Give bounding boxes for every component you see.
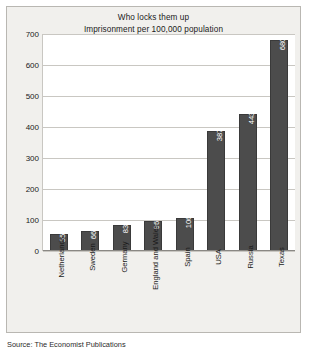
y-axis-tick-label: 600 xyxy=(26,61,39,70)
bar-value-label: 443 xyxy=(248,111,256,124)
x-axis-label-slot: USA xyxy=(200,255,232,331)
x-axis-label-slot: Germany xyxy=(105,255,137,331)
bar-slot: 443 xyxy=(239,34,257,251)
y-axis-tick-label: 500 xyxy=(26,92,39,101)
bar-slot: 83 xyxy=(113,34,131,251)
chart-title: Who locks them up xyxy=(7,13,300,22)
bar-value-label: 387 xyxy=(216,129,224,142)
x-axis-tick-label: Texas xyxy=(278,247,286,267)
y-axis-tick-label: 700 xyxy=(26,30,39,39)
x-axis-tick-label: Sweden xyxy=(89,243,97,270)
source-note: Source: The Economist Publications xyxy=(7,340,126,349)
x-axis-tick-label: USA xyxy=(215,249,223,265)
x-axis-label-slot: England and Wales xyxy=(137,255,169,331)
x-axis-label-slot: Sweden xyxy=(74,255,106,331)
bar-value-label: 680 xyxy=(279,38,287,51)
x-axis-category-labels: NetherlandsSwedenGermanyEngland and Wale… xyxy=(42,255,294,331)
gridline xyxy=(43,251,295,252)
x-axis-line xyxy=(43,250,295,251)
chart-subtitle: Imprisonment per 100,000 population xyxy=(7,25,300,34)
bar[interactable]: 106 xyxy=(176,218,194,251)
bar[interactable]: 680 xyxy=(270,40,288,251)
x-axis-tick-label: Germany xyxy=(121,241,129,272)
bar-value-label: 83 xyxy=(122,225,130,233)
y-axis-tick-label: 300 xyxy=(26,154,39,163)
x-axis-label-slot: Spain xyxy=(168,255,200,331)
bar[interactable]: 443 xyxy=(239,114,257,251)
bar-value-label: 66 xyxy=(90,230,98,238)
bar-slot: 106 xyxy=(176,34,194,251)
bar-slot: 387 xyxy=(207,34,225,251)
x-axis-tick-label: England and Wales xyxy=(152,224,160,290)
x-axis-label-slot: Russia xyxy=(231,255,263,331)
bar-slot: 55 xyxy=(50,34,68,251)
bar-slot: 680 xyxy=(270,34,288,251)
y-axis-tick-label: 400 xyxy=(26,123,39,132)
x-axis-label-slot: Texas xyxy=(263,255,295,331)
bar-slot: 66 xyxy=(81,34,99,251)
bar-series: 55668396106387443680 xyxy=(43,34,295,251)
bar-value-label: 106 xyxy=(185,216,193,229)
y-axis-tick-label: 100 xyxy=(26,216,39,225)
chart-panel: Who locks them up Imprisonment per 100,0… xyxy=(6,6,301,333)
bar-slot: 96 xyxy=(144,34,162,251)
y-axis-tick-label: 200 xyxy=(26,185,39,194)
plot-area: 0100200300400500600700 55668396106387443… xyxy=(42,34,295,251)
y-axis-tick-label: 0 xyxy=(35,247,39,256)
x-axis-label-slot: Netherlands xyxy=(42,255,74,331)
x-axis-tick-label: Russia xyxy=(247,245,255,268)
bar[interactable]: 387 xyxy=(207,131,225,251)
x-axis-tick-label: Netherlands xyxy=(58,237,66,278)
x-axis-tick-label: Spain xyxy=(184,247,192,266)
